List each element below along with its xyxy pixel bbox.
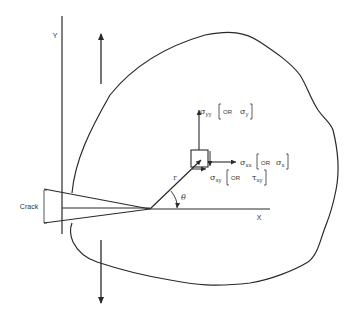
svg-text:OR: OR [261,160,271,166]
crack-upper-face [44,189,150,209]
sxy-label: σxy OR τxy [210,170,266,185]
x-axis-label: X [257,214,262,221]
svg-text:σxy: σxy [210,173,223,184]
svg-text:τxy: τxy [252,173,264,184]
theta-arc [171,191,177,208]
svg-text:σyy: σyy [200,107,213,118]
svg-text:σxx: σxx [240,158,253,168]
crack-tip-stress-diagram: Y X Crack r θ σyy OR σy σxx OR σx σxy OR [0,0,348,313]
svg-text:OR: OR [231,175,241,181]
crack-lower-face [44,209,150,223]
syy-label: σyy OR σy [200,104,252,119]
stress-element [191,150,208,167]
body-boundary [71,32,339,285]
svg-text:σx: σx [276,158,285,168]
r-label: r [173,174,177,182]
svg-text:σy: σy [240,107,249,118]
theta-label: θ [181,193,186,202]
svg-text:OR: OR [223,109,233,115]
sxx-label: σxx OR σx [240,154,288,169]
crack-bracket [44,190,47,223]
crack-label: Crack [20,203,39,210]
y-axis-label: Y [53,32,58,39]
